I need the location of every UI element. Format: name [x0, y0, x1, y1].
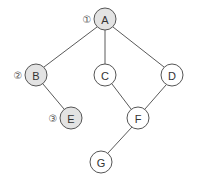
node-c: C — [94, 64, 116, 86]
node-a: A — [94, 8, 116, 30]
node-f-label: F — [135, 113, 142, 125]
node-f: F — [127, 107, 149, 129]
edge-b-e — [43, 84, 64, 109]
edge-d-f — [145, 85, 166, 109]
node-b: B — [25, 64, 47, 86]
node-e: E — [60, 107, 82, 129]
node-g: G — [90, 151, 112, 173]
order-marker-1-label: ① — [83, 14, 92, 25]
order-marker-2-label: ② — [14, 70, 23, 81]
node-b-label: B — [32, 70, 39, 82]
edges — [43, 27, 166, 153]
node-g-label: G — [97, 157, 106, 169]
edge-a-d — [113, 27, 164, 67]
edge-a-b — [44, 27, 97, 67]
node-a-label: A — [101, 14, 109, 26]
order-marker-3-label: ③ — [49, 113, 58, 124]
edge-f-g — [108, 127, 132, 153]
edge-c-f — [112, 84, 131, 109]
order-marker-1: ① — [83, 14, 92, 25]
order-marker-2: ② — [14, 70, 23, 81]
order-marker-3: ③ — [49, 113, 58, 124]
graph-diagram: A ① B ② C D E ③ F G — [0, 0, 199, 186]
node-d: D — [161, 64, 183, 86]
node-e-label: E — [67, 113, 74, 125]
node-c-label: C — [101, 70, 109, 82]
node-d-label: D — [168, 70, 176, 82]
